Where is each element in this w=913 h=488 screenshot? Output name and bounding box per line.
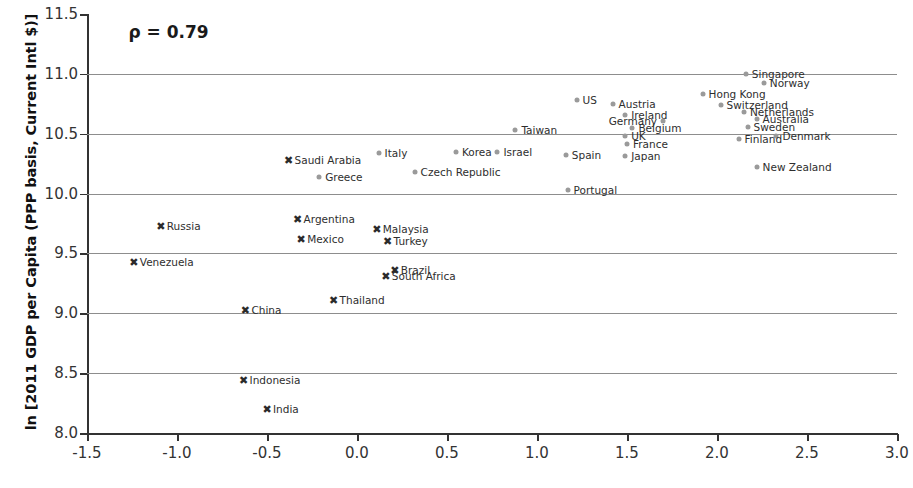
- y-tick-label: 10.5: [32, 125, 78, 143]
- x-tick-label: -0.5: [237, 444, 297, 462]
- x-tick: [357, 434, 359, 441]
- y-tick-label: 9.0: [32, 304, 78, 322]
- data-point-marker[interactable]: [610, 101, 615, 106]
- x-tick: [897, 434, 899, 441]
- x-tick: [537, 434, 539, 441]
- data-point-label: Japan: [631, 150, 660, 162]
- data-point-marker[interactable]: [382, 236, 393, 247]
- y-tick-label: 11.0: [32, 65, 78, 83]
- data-point-label: Turkey: [394, 235, 428, 247]
- data-point-marker[interactable]: [623, 154, 628, 159]
- data-point-label: China: [251, 304, 281, 316]
- y-tick-label: 11.5: [32, 5, 78, 23]
- y-tick: [80, 433, 87, 435]
- data-point-label: Italy: [385, 147, 408, 159]
- x-tick: [627, 434, 629, 441]
- y-tick: [80, 74, 87, 76]
- data-point-marker[interactable]: [743, 71, 748, 76]
- data-point-label: Denmark: [782, 130, 830, 142]
- data-point-label: Taiwan: [521, 124, 557, 136]
- x-axis-line: [87, 433, 898, 435]
- data-point-marker[interactable]: [328, 295, 339, 306]
- data-point-marker[interactable]: [700, 92, 705, 97]
- x-tick: [807, 434, 809, 441]
- data-point-marker[interactable]: [563, 153, 568, 158]
- data-point-marker[interactable]: [380, 271, 391, 282]
- data-point-marker[interactable]: [754, 165, 759, 170]
- data-point-marker[interactable]: [262, 404, 273, 415]
- y-tick-label: 9.5: [32, 244, 78, 262]
- data-point-label: Malaysia: [383, 223, 429, 235]
- x-tick-label: 1.0: [507, 444, 567, 462]
- x-tick: [267, 434, 269, 441]
- x-tick-label: 0.5: [417, 444, 477, 462]
- data-point-label: Israel: [503, 146, 532, 158]
- data-point-label: Spain: [572, 149, 601, 161]
- data-point-layer: SingaporeNorwayHong KongUSAustriaSwitzer…: [87, 14, 897, 433]
- data-point-marker[interactable]: [454, 149, 459, 154]
- data-point-marker[interactable]: [565, 187, 570, 192]
- data-point-label: Saudi Arabia: [295, 154, 362, 166]
- data-point-marker[interactable]: [495, 149, 500, 154]
- x-tick-label: 1.5: [597, 444, 657, 462]
- data-point-marker[interactable]: [574, 98, 579, 103]
- data-point-marker[interactable]: [718, 102, 723, 107]
- data-point-marker[interactable]: [283, 155, 294, 166]
- data-point-marker[interactable]: [317, 174, 322, 179]
- data-point-marker[interactable]: [240, 304, 251, 315]
- data-point-label: Thailand: [340, 294, 385, 306]
- y-tick-label: 8.0: [32, 424, 78, 442]
- x-tick-label: -1.5: [57, 444, 117, 462]
- data-point-label: Portugal: [574, 184, 618, 196]
- data-point-marker[interactable]: [623, 134, 628, 139]
- data-point-marker[interactable]: [761, 81, 766, 86]
- data-point-label: Venezuela: [140, 256, 194, 268]
- y-tick-label: 8.5: [32, 364, 78, 382]
- x-tick: [87, 434, 89, 441]
- y-tick: [80, 134, 87, 136]
- data-point-label: South Africa: [392, 270, 456, 282]
- y-tick: [80, 194, 87, 196]
- x-tick-label: 2.0: [687, 444, 747, 462]
- data-point-marker[interactable]: [412, 170, 417, 175]
- data-point-marker[interactable]: [128, 256, 139, 267]
- data-point-marker[interactable]: [376, 150, 381, 155]
- y-tick: [80, 313, 87, 315]
- x-tick: [447, 434, 449, 441]
- data-point-label: Norway: [770, 77, 810, 89]
- data-point-label: US: [583, 94, 597, 106]
- x-tick-label: 0.0: [327, 444, 387, 462]
- x-tick-label: -1.0: [147, 444, 207, 462]
- data-point-marker[interactable]: [238, 375, 249, 386]
- data-point-label: Korea: [462, 146, 492, 158]
- x-tick-label: 3.0: [867, 444, 913, 462]
- x-tick: [717, 434, 719, 441]
- x-tick: [177, 434, 179, 441]
- data-point-label: Finland: [745, 133, 783, 145]
- data-point-label: Indonesia: [250, 374, 301, 386]
- data-point-marker[interactable]: [745, 124, 750, 129]
- data-point-label: France: [633, 138, 668, 150]
- y-tick: [80, 14, 87, 16]
- data-point-marker[interactable]: [513, 128, 518, 133]
- y-tick-label: 10.0: [32, 185, 78, 203]
- data-point-marker[interactable]: [742, 110, 747, 115]
- data-point-label: Argentina: [304, 213, 355, 225]
- data-point-marker[interactable]: [296, 234, 307, 245]
- data-point-marker[interactable]: [736, 136, 741, 141]
- data-point-marker[interactable]: [625, 142, 630, 147]
- data-point-marker[interactable]: [292, 213, 303, 224]
- data-point-marker[interactable]: [371, 224, 382, 235]
- y-tick: [80, 253, 87, 255]
- data-point-label: Greece: [325, 171, 362, 183]
- data-point-label: Russia: [167, 220, 201, 232]
- data-point-marker[interactable]: [155, 220, 166, 231]
- data-point-label: New Zealand: [763, 161, 832, 173]
- data-point-label: Mexico: [307, 233, 344, 245]
- y-tick: [80, 373, 87, 375]
- x-tick-label: 2.5: [777, 444, 837, 462]
- data-point-label: India: [273, 403, 299, 415]
- data-point-label: Czech Republic: [421, 166, 501, 178]
